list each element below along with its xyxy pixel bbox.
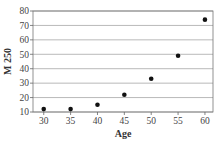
data-point xyxy=(41,107,46,112)
y-tick-label: 50 xyxy=(20,50,30,60)
y-axis-title: M 250 xyxy=(2,48,13,75)
data-point xyxy=(95,102,100,107)
y-tick-label: 20 xyxy=(20,93,30,103)
gridlines xyxy=(33,11,213,112)
data-point xyxy=(68,107,73,112)
x-tick-label: 35 xyxy=(66,116,76,126)
x-tick-label: 40 xyxy=(93,116,103,126)
y-tick-label: 70 xyxy=(20,21,30,31)
x-tick-label: 45 xyxy=(120,116,130,126)
x-tick-label: 50 xyxy=(146,116,156,126)
y-tick-label: 30 xyxy=(20,78,30,88)
data-point xyxy=(122,92,127,97)
data-point xyxy=(149,77,154,82)
plot-frame xyxy=(33,11,213,112)
scatter-chart: 1020304050607080 30354045505560 Age M 25… xyxy=(0,0,218,141)
y-tick-label: 60 xyxy=(20,35,30,45)
x-tick-label: 55 xyxy=(173,116,183,126)
data-point xyxy=(176,53,181,58)
x-tick-label: 30 xyxy=(39,116,49,126)
x-axis-title: Age xyxy=(115,128,132,139)
data-point xyxy=(203,17,208,22)
y-tick-label: 10 xyxy=(20,107,30,117)
y-tick-label: 80 xyxy=(20,6,30,16)
x-axis-ticks: 30354045505560 xyxy=(39,112,210,126)
x-tick-label: 60 xyxy=(200,116,210,126)
y-axis-ticks: 1020304050607080 xyxy=(20,6,34,117)
y-tick-label: 40 xyxy=(20,64,30,74)
